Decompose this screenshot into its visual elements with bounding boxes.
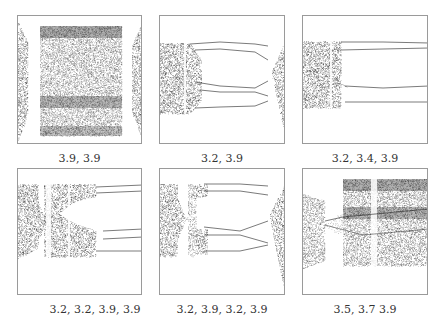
plot-canvas bbox=[18, 16, 141, 143]
bifurcation-plot-2 bbox=[159, 15, 285, 144]
caption-2: 3.2, 3.9 bbox=[159, 152, 285, 165]
caption-3: 3.2, 3.4, 3.9 bbox=[302, 152, 428, 165]
caption-6: 3.5, 3.7 3.9 bbox=[302, 303, 428, 316]
caption-4: 3.2, 3.2, 3.9, 3.9 bbox=[40, 303, 150, 316]
bifurcation-plot-1 bbox=[17, 15, 142, 144]
plot-canvas bbox=[160, 169, 284, 294]
plot-canvas bbox=[160, 16, 284, 143]
plot-canvas bbox=[303, 16, 427, 143]
caption-1: 3.9, 3.9 bbox=[17, 152, 142, 165]
bifurcation-plot-6 bbox=[302, 168, 428, 295]
bifurcation-plot-5 bbox=[159, 168, 285, 295]
caption-5: 3.2, 3.9, 3.2, 3.9 bbox=[159, 303, 285, 316]
plot-canvas bbox=[303, 169, 427, 294]
bifurcation-plot-4 bbox=[17, 168, 142, 295]
plot-canvas bbox=[18, 169, 141, 294]
bifurcation-plot-3 bbox=[302, 15, 428, 144]
